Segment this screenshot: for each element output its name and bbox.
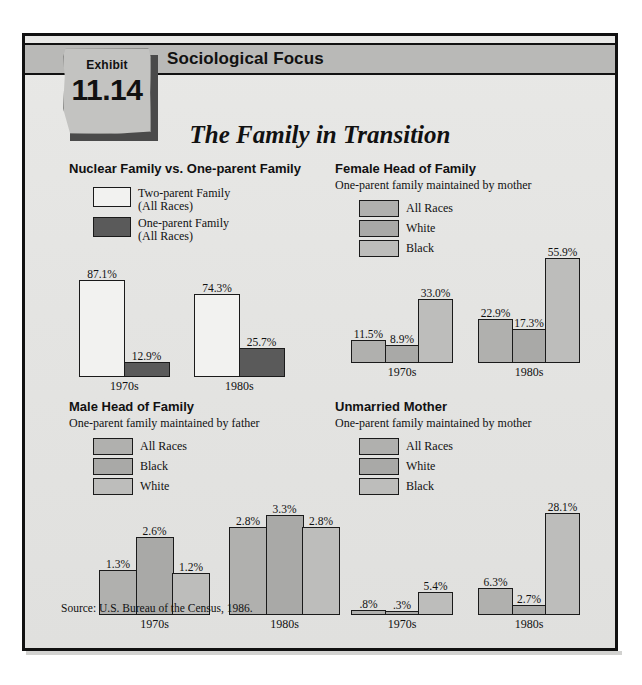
bar-group-1980s: 22.9% 17.3% 55.9% 1980s	[478, 258, 580, 363]
legend-label: One-parent Family (All Races)	[138, 217, 229, 242]
group-label: 1970s	[388, 365, 417, 380]
bar-all-races: 6.3%	[478, 588, 513, 615]
bar-group-1970s: .8% .3% 5.4% 1970s	[351, 592, 453, 615]
chart-legend: All Races Black White	[93, 437, 339, 495]
bar-value-label: 1.3%	[106, 558, 130, 570]
bar-all-races: 22.9%	[478, 319, 513, 363]
legend-label: Black	[406, 480, 434, 493]
bar-value-label: 87.1%	[87, 268, 117, 280]
chart-legend: All Races White Black	[359, 437, 605, 495]
legend-swatch-one-parent	[93, 217, 131, 237]
plot-area: 11.5% 8.9% 33.0% 1970s 22.9%	[335, 269, 605, 381]
chart-subtitle: One-parent family maintained by father	[69, 416, 339, 431]
bar-value-label: 28.1%	[548, 501, 578, 513]
bar-all-races: 11.5%	[351, 340, 386, 363]
legend-swatch-white	[93, 478, 133, 495]
bar-value-label: 3.3%	[273, 503, 297, 515]
bar-value-label: 1.2%	[179, 561, 203, 573]
chart-nuclear-vs-one-parent: Nuclear Family vs. One-parent Family Two…	[69, 161, 324, 395]
plot-area: 1.3% 2.6% 1.2% 1970s 2.8%	[69, 513, 339, 633]
legend-label: Two-parent Family (All Races)	[138, 187, 230, 212]
header-title: Sociological Focus	[167, 49, 324, 69]
chart-subtitle: One-parent family maintained by mother	[335, 178, 605, 193]
legend-item: Two-parent Family (All Races)	[93, 187, 324, 213]
group-label: 1970s	[388, 617, 417, 632]
bar-group-1980s: 6.3% 2.7% 28.1% 1980s	[478, 513, 580, 615]
bar-value-label: 74.3%	[202, 282, 232, 294]
source-note: Source: U.S. Bureau of the Census, 1986.	[61, 602, 253, 614]
bar-black: 5.4%	[418, 592, 453, 615]
bar-one-parent: 25.7%	[239, 348, 285, 377]
legend-label: White	[406, 222, 435, 235]
legend-label: White	[140, 480, 169, 493]
chart-unmarried-mother: Unmarried Mother One-parent family maint…	[335, 399, 605, 633]
bar-black: 3.3%	[266, 515, 304, 615]
bar-value-label: 2.7%	[517, 593, 541, 605]
bar-value-label: .3%	[393, 599, 411, 611]
legend-swatch-white	[359, 220, 399, 237]
bar-value-label: 2.8%	[309, 515, 333, 527]
bar-black: 55.9%	[545, 258, 580, 363]
legend-swatch-white	[359, 458, 399, 475]
legend-swatch-black	[93, 458, 133, 475]
legend-item: Black	[359, 477, 605, 495]
legend-item: White	[93, 477, 339, 495]
bar-group-1980s: 74.3% 25.7% 1980s	[194, 294, 285, 377]
legend-item: All Races	[359, 437, 605, 455]
legend-swatch-all-races	[359, 200, 399, 217]
plot-area: .8% .3% 5.4% 1970s 6.3%	[335, 513, 605, 633]
group-label: 1980s	[515, 617, 544, 632]
legend-item: One-parent Family (All Races)	[93, 217, 324, 243]
legend-swatch-two-parent	[93, 187, 131, 207]
bar-value-label: 33.0%	[421, 287, 451, 299]
group-label: 1980s	[270, 617, 299, 632]
legend-swatch-all-races	[93, 438, 133, 455]
plot-area: 87.1% 12.9% 1970s 74.3% 25.7%	[69, 265, 324, 395]
chart-female-head-of-family: Female Head of Family One-parent family …	[335, 161, 605, 381]
bar-value-label: 25.7%	[247, 336, 277, 348]
bar-value-label: 8.9%	[390, 333, 414, 345]
legend-swatch-black	[359, 478, 399, 495]
legend-label: All Races	[140, 440, 187, 453]
chart-title: Female Head of Family	[335, 161, 605, 176]
legend-label: All Races	[406, 440, 453, 453]
legend-item: All Races	[359, 199, 605, 217]
legend-swatch-black	[359, 240, 399, 257]
legend-label: All Races	[406, 202, 453, 215]
bar-value-label: .8%	[359, 598, 377, 610]
page-title: The Family in Transition	[25, 121, 615, 149]
bar-value-label: 12.9%	[132, 350, 162, 362]
legend-label-sub: (All Races)	[138, 199, 193, 213]
bar-two-parent: 87.1%	[79, 280, 125, 377]
exhibit-label: Exhibit	[64, 58, 150, 72]
legend-label-sub: (All Races)	[138, 229, 193, 243]
bar-one-parent: 12.9%	[124, 362, 170, 377]
bar-group-1980s: 2.8% 3.3% 2.8% 1980s	[229, 515, 340, 615]
legend-item: White	[359, 457, 605, 475]
bar-white: 17.3%	[512, 329, 547, 363]
bar-white: 8.9%	[385, 345, 420, 363]
bar-white: .3%	[385, 611, 420, 615]
bar-value-label: 55.9%	[548, 246, 578, 258]
legend-item: All Races	[93, 437, 339, 455]
group-label: 1970s	[140, 617, 169, 632]
legend-label: White	[406, 460, 435, 473]
bar-value-label: 5.4%	[424, 580, 448, 592]
panel-drop-shadow	[26, 651, 622, 655]
group-label: 1980s	[225, 379, 254, 394]
bar-all-races: .8%	[351, 610, 386, 615]
bar-value-label: 11.5%	[354, 328, 383, 340]
bar-black: 28.1%	[545, 513, 580, 615]
bar-value-label: 22.9%	[481, 307, 511, 319]
legend-label: Black	[406, 242, 434, 255]
bar-black: 33.0%	[418, 299, 453, 363]
exhibit-panel: Sociological Focus Exhibit 11.14 The Fam…	[22, 33, 618, 651]
chart-title: Male Head of Family	[69, 399, 339, 414]
bar-two-parent: 74.3%	[194, 294, 240, 377]
chart-title: Nuclear Family vs. One-parent Family	[69, 161, 324, 176]
bar-group-1970s: 11.5% 8.9% 33.0% 1970s	[351, 299, 453, 363]
group-label: 1970s	[110, 379, 139, 394]
legend-swatch-all-races	[359, 438, 399, 455]
bar-value-label: 17.3%	[514, 317, 544, 329]
legend-label: Black	[140, 460, 168, 473]
